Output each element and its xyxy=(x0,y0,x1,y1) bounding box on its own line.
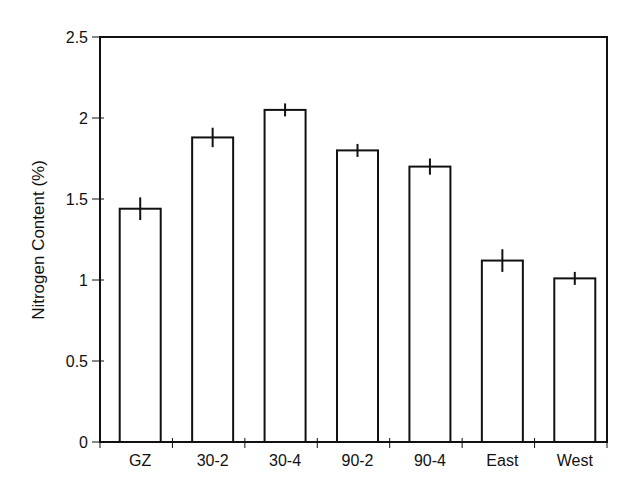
bar-30-4 xyxy=(265,110,306,442)
bars xyxy=(120,103,596,442)
bar-west xyxy=(554,278,595,442)
x-tick-label: GZ xyxy=(129,452,151,469)
bar-gz xyxy=(120,209,161,442)
y-tick-label: 0.5 xyxy=(66,353,88,370)
bar-east xyxy=(482,261,523,442)
y-tick-label: 1.5 xyxy=(66,191,88,208)
y-tick-label: 2 xyxy=(79,110,88,127)
x-tick-label: East xyxy=(486,452,519,469)
bar-90-2 xyxy=(337,150,378,442)
y-axis-title: Nitrogen Content (%) xyxy=(29,160,48,320)
y-tick-label: 0 xyxy=(79,434,88,451)
x-tick-label: 90-2 xyxy=(341,452,373,469)
x-tick-label: 30-2 xyxy=(197,452,229,469)
y-tick-label: 2.5 xyxy=(66,29,88,46)
x-tick-label: 30-4 xyxy=(269,452,301,469)
y-axis-ticks: 00.511.522.5 xyxy=(66,29,104,451)
y-tick-label: 1 xyxy=(79,272,88,289)
x-tick-label: 90-4 xyxy=(414,452,446,469)
bar-30-2 xyxy=(192,137,233,442)
bar-chart: 00.511.522.5 GZ30-230-490-290-4EastWest … xyxy=(0,0,633,497)
x-tick-label: West xyxy=(557,452,594,469)
bar-90-4 xyxy=(409,167,450,442)
